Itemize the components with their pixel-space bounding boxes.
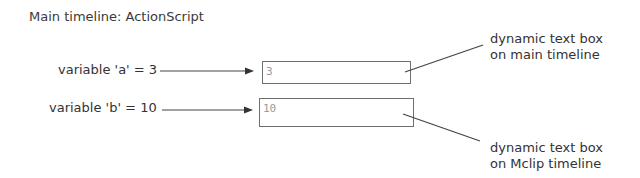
callout-line-main [405,45,483,72]
callout-line-mclip [403,114,480,141]
callout-mclip-line2: on Mclip timeline [490,156,603,172]
callout-main-line1: dynamic text box [490,31,603,47]
callout-main-timeline: dynamic text box on main timeline [490,31,603,63]
callout-mclip-line1: dynamic text box [490,140,603,156]
callout-mclip-timeline: dynamic text box on Mclip timeline [490,140,603,172]
arrow-a-icon [160,68,254,75]
arrow-b-icon [162,107,253,114]
callout-main-line2: on main timeline [490,47,603,63]
